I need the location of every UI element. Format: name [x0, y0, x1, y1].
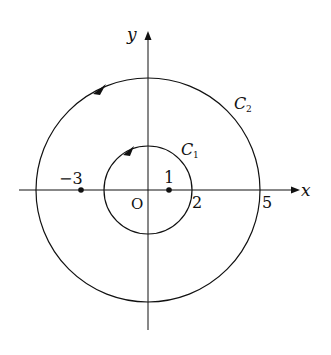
- x-axis-arrow-icon: [291, 187, 300, 194]
- point-1-label: 1: [164, 168, 174, 187]
- y-axis-arrow-icon: [145, 31, 152, 40]
- c1-label: C 1: [181, 140, 199, 160]
- svg-text:C: C: [234, 94, 246, 113]
- c1-direction-arrow-icon: [123, 146, 134, 156]
- x-axis-label: x: [301, 180, 311, 200]
- mark-2-label: 2: [192, 193, 202, 212]
- point-minus-3: [78, 187, 84, 193]
- diagram-canvas: y x O −3 1 2 5 C 1 C 2: [0, 0, 331, 355]
- y-axis-label: y: [126, 24, 137, 44]
- y-axis: [145, 31, 152, 330]
- point-1: [166, 187, 172, 193]
- c2-label: C 2: [234, 94, 252, 114]
- svg-text:C: C: [181, 140, 193, 159]
- c2-direction-arrow-icon: [93, 84, 106, 95]
- origin-label: O: [131, 195, 143, 213]
- svg-text:2: 2: [246, 104, 252, 114]
- mark-5-label: 5: [262, 193, 272, 212]
- point-minus-3-label: −3: [59, 169, 83, 188]
- svg-text:1: 1: [193, 150, 199, 160]
